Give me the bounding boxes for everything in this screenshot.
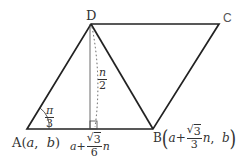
a-close-paren: ) [55, 135, 60, 150]
height-label-n-over-2: n 2 [97, 67, 108, 91]
foot-frac-num: 3 [94, 132, 101, 146]
vertex-label-c: C [223, 12, 232, 24]
rhombus-abcd [27, 24, 219, 129]
vertex-a-name: A [12, 135, 21, 150]
b-frac-num: 3 [194, 124, 201, 138]
b-comma: , [210, 132, 214, 144]
b-coord-a: a [168, 132, 175, 144]
b-coord-n: n [203, 132, 211, 144]
foot-plus: + [77, 141, 86, 152]
foot-x-label: a + 3 6 n [70, 134, 110, 158]
vertex-b-name: B [153, 132, 162, 144]
a-coord-y: b [47, 135, 55, 150]
right-angle-marker [90, 121, 97, 129]
angle-den: 3 [46, 118, 53, 130]
height-num: n [98, 67, 107, 80]
angle-num: π [45, 105, 54, 118]
b-close-paren: ) [230, 127, 237, 149]
a-comma: , [34, 135, 38, 150]
vertex-label-a: A(a, b) [12, 136, 60, 149]
b-frac-den: 3 [191, 139, 198, 151]
b-coord-b: b [222, 132, 230, 144]
b-open-paren: ( [162, 127, 169, 149]
foot-n: n [103, 141, 110, 152]
b-plus: + [176, 132, 186, 144]
vertex-label-d: D [86, 9, 96, 22]
vertex-label-b: B ( a + 3 3 n, b ) [153, 126, 236, 150]
foot-frac-den: 6 [91, 147, 98, 159]
height-den: 2 [99, 80, 106, 92]
angle-label-pi-over-3: π 3 [44, 105, 55, 129]
